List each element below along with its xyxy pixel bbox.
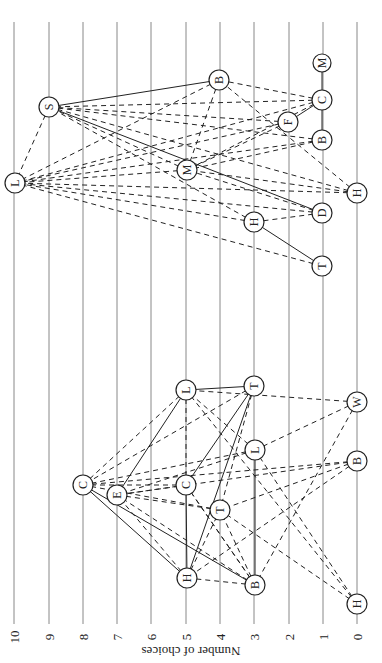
node-H2: H: [244, 212, 264, 232]
svg-text:B: B: [212, 76, 226, 84]
svg-text:C: C: [76, 481, 90, 489]
svg-text:L: L: [8, 179, 22, 186]
node-B2: B: [312, 130, 332, 150]
svg-text:S: S: [42, 104, 56, 111]
node-L3: L: [176, 380, 196, 400]
svg-text:L: L: [248, 446, 262, 453]
node-T1: T: [312, 256, 332, 276]
node-H1: H: [347, 183, 367, 203]
svg-text:W: W: [350, 396, 364, 408]
node-H3: H: [177, 568, 197, 588]
svg-text:T: T: [247, 382, 261, 390]
node-T4: T: [210, 500, 230, 520]
node-W3: W: [347, 392, 367, 412]
tick-6: 6: [144, 633, 159, 640]
grid-lines: [14, 22, 357, 624]
svg-text:F: F: [281, 118, 295, 125]
svg-text:T: T: [315, 262, 329, 270]
svg-text:D: D: [315, 208, 329, 217]
tick-5: 5: [179, 634, 194, 641]
tick-1: 1: [316, 634, 331, 641]
svg-text:H: H: [180, 573, 194, 582]
svg-text:H: H: [350, 188, 364, 197]
node-M2: M: [177, 160, 197, 180]
node-B4: B: [347, 451, 367, 471]
node-E3: E: [107, 485, 127, 505]
tick-3: 3: [247, 634, 262, 641]
svg-text:H: H: [350, 599, 364, 608]
axis-ticks: 10 9 8 7 6 5 4 3 2 1 0: [7, 631, 365, 644]
node-L1: L: [5, 173, 25, 193]
tick-7: 7: [110, 633, 125, 640]
node-T3: T: [244, 376, 264, 396]
svg-text:T: T: [213, 506, 227, 514]
node-M1: M: [313, 54, 331, 72]
tick-8: 8: [76, 634, 91, 641]
node-F1: F: [278, 112, 298, 132]
node-B1: B: [209, 70, 229, 90]
tick-10: 10: [7, 631, 22, 644]
node-C4: C: [176, 475, 196, 495]
node-L4: L: [245, 440, 265, 460]
node-H4: H: [347, 594, 367, 614]
tick-0: 0: [350, 634, 365, 641]
node-D1: D: [312, 203, 332, 223]
svg-text:B: B: [350, 457, 364, 465]
node-C3: C: [73, 475, 93, 495]
svg-text:L: L: [179, 386, 193, 393]
node-B3: B: [245, 575, 265, 595]
tick-9: 9: [42, 634, 57, 641]
svg-text:M: M: [315, 57, 329, 68]
node-C1: C: [312, 90, 332, 110]
svg-text:B: B: [248, 581, 262, 589]
svg-text:C: C: [315, 96, 329, 104]
svg-text:B: B: [315, 136, 329, 144]
svg-text:H: H: [247, 217, 261, 226]
svg-text:E: E: [110, 491, 124, 498]
node-S1: S: [39, 97, 59, 117]
axis-label: Number of choices: [142, 644, 241, 659]
sociogram-diagram: L S B M C F B M H D H T L T W C E C T L …: [0, 0, 382, 663]
tick-2: 2: [282, 634, 297, 641]
svg-text:M: M: [180, 164, 194, 175]
svg-text:C: C: [179, 481, 193, 489]
tick-4: 4: [213, 633, 228, 640]
